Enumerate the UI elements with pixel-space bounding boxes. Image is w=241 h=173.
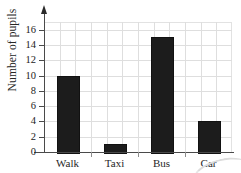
plot-area (44, 22, 232, 152)
x-axis-label-bus: Bus (135, 157, 189, 170)
plot-frame-right (231, 22, 232, 152)
y-tick-label: 16 (4, 25, 36, 35)
bar-walk (57, 76, 80, 154)
gridline-vertical (91, 22, 92, 152)
y-tick-mark (39, 91, 44, 92)
bar-chart: Number of pupils 1614121086420 WalkTaxiB… (0, 0, 241, 173)
x-axis-label-taxi: Taxi (88, 157, 142, 170)
gridline-vertical (185, 22, 186, 152)
y-tick-label: 4 (4, 116, 36, 126)
y-tick-mark (39, 30, 44, 31)
y-tick-mark (39, 76, 44, 77)
y-tick-label: 2 (4, 132, 36, 142)
y-tick-label: 12 (4, 55, 36, 65)
y-tick-mark (39, 106, 44, 107)
arrow-up-icon (41, 5, 47, 14)
y-tick-mark (39, 137, 44, 138)
x-axis-line (34, 152, 234, 153)
y-tick-label: 0 (4, 147, 36, 157)
y-tick-mark (39, 60, 44, 61)
y-axis-line (44, 12, 45, 153)
y-tick-label: 6 (4, 101, 36, 111)
gridline-vertical (122, 22, 123, 152)
gridline-vertical (138, 22, 139, 152)
y-tick-mark (39, 45, 44, 46)
y-tick-mark (39, 121, 44, 122)
y-tick-label: 8 (4, 86, 36, 96)
y-tick-label: 10 (4, 71, 36, 81)
gridline-vertical (107, 22, 108, 152)
bar-bus (151, 37, 174, 154)
x-axis-label-walk: Walk (41, 157, 95, 170)
y-tick-mark (39, 152, 44, 153)
bar-car (198, 121, 221, 154)
y-tick-label: 14 (4, 40, 36, 50)
